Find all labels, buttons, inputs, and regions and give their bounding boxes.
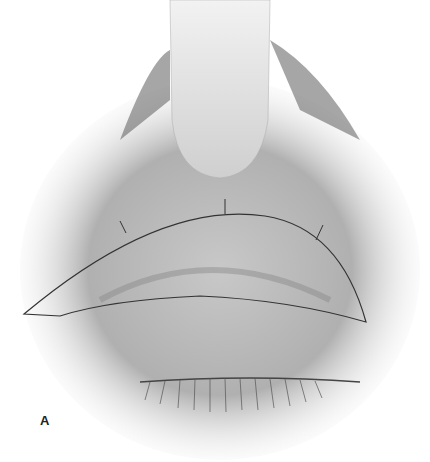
illustration: A [0, 0, 430, 462]
finger [170, 0, 270, 178]
eye-illustration [0, 0, 430, 462]
panel-label: A [40, 413, 49, 428]
